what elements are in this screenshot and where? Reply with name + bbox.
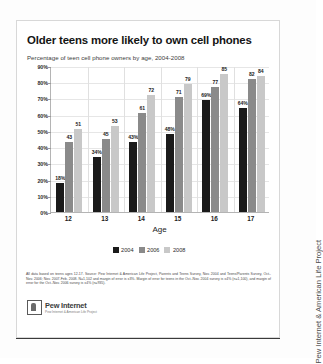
y-axis-labels: 0%10%20%30%40%50%60%70%80%90% xyxy=(25,67,49,213)
bar: 69% xyxy=(202,100,210,212)
x-axis-tick-label: 14 xyxy=(138,215,145,222)
bar-value-label: 51 xyxy=(75,121,81,127)
bar-value-label: 85 xyxy=(221,66,227,72)
bar-value-label: 45 xyxy=(103,131,109,137)
legend-swatch xyxy=(139,247,145,253)
bar: 61 xyxy=(138,113,146,212)
bar: 84 xyxy=(257,76,265,212)
plot-canvas: 18%435134%455343%617248%717969%778564%82… xyxy=(50,67,269,213)
bar-value-label: 64% xyxy=(238,100,248,106)
bar: 79 xyxy=(184,84,192,212)
bar-value-label: 43% xyxy=(128,134,138,140)
bar-group: 48%7179 xyxy=(161,67,198,212)
y-axis-tick-label: 0% xyxy=(40,210,48,216)
legend-item: 2006 xyxy=(139,247,160,253)
legend-label: 2006 xyxy=(147,247,159,253)
legend-item: 2008 xyxy=(164,247,185,253)
bar-value-label: 72 xyxy=(148,87,154,93)
bar: 34% xyxy=(93,157,101,212)
bar-value-label: 69% xyxy=(201,92,211,98)
bar: 18% xyxy=(56,183,64,212)
x-axis-tick-label: 17 xyxy=(247,215,254,222)
bar: 53 xyxy=(111,126,119,212)
bar-group: 69%7785 xyxy=(197,67,234,212)
legend-label: 2008 xyxy=(173,247,185,253)
page-subtitle: Percentage of teen cell phone owners by … xyxy=(27,54,273,61)
bar-value-label: 71 xyxy=(176,89,182,95)
bar: 64% xyxy=(239,108,247,212)
bar: 71 xyxy=(175,97,183,212)
bar-value-label: 53 xyxy=(112,118,118,124)
y-axis-tick-label: 80% xyxy=(37,80,48,86)
logo-text: Pew Internet Pew Internet & American Lif… xyxy=(45,302,97,314)
chart-card: Older teens more likely to own cell phon… xyxy=(16,20,280,338)
legend-swatch xyxy=(113,247,119,253)
logo-tagline: Pew Internet & American Life Project xyxy=(45,310,97,314)
bar-group: 64%8284 xyxy=(234,67,271,212)
y-axis-tick-label: 50% xyxy=(37,129,48,135)
legend-label: 2004 xyxy=(121,247,133,253)
bar: 48% xyxy=(166,134,174,212)
bar: 43 xyxy=(65,142,73,212)
bar: 82 xyxy=(248,79,256,212)
page-title: Older teens more likely to own cell phon… xyxy=(27,34,273,47)
y-axis-tick xyxy=(48,213,51,214)
x-axis-tick-label: 13 xyxy=(101,215,108,222)
bar-value-label: 82 xyxy=(249,71,255,77)
bar: 72 xyxy=(147,95,155,212)
x-axis-title: Age xyxy=(50,225,269,234)
bar-value-label: 61 xyxy=(139,105,145,111)
legend-swatch xyxy=(164,247,170,253)
bar-value-label: 18% xyxy=(55,175,65,181)
bar-group: 18%4351 xyxy=(51,67,88,212)
bar: 43% xyxy=(129,142,137,212)
y-axis-tick-label: 70% xyxy=(37,96,48,102)
bar: 51 xyxy=(74,129,82,212)
y-axis-tick-label: 30% xyxy=(37,161,48,167)
bar-group: 43%6172 xyxy=(124,67,161,212)
pew-internet-logo: Pew Internet Pew Internet & American Lif… xyxy=(27,300,97,315)
chart-legend: 200420062008 xyxy=(17,247,281,253)
x-axis-tick-label: 12 xyxy=(65,215,72,222)
logo-name: Pew Internet xyxy=(45,302,97,310)
side-credit: Pew Internet & American Life Project xyxy=(314,240,323,364)
pew-logo-icon xyxy=(27,300,42,315)
bar: 77 xyxy=(211,87,219,212)
x-axis-tick-label: 15 xyxy=(174,215,181,222)
y-axis-tick-label: 60% xyxy=(37,113,48,119)
footnote: All data based on teens ages 12-17. Sour… xyxy=(26,272,271,286)
plot-area: 0%10%20%30%40%50%60%70%80%90% 18%435134%… xyxy=(25,67,273,229)
y-axis-tick-label: 20% xyxy=(37,178,48,184)
y-axis-tick-label: 10% xyxy=(37,194,48,200)
legend-item: 2004 xyxy=(113,247,134,253)
bar: 85 xyxy=(220,74,228,212)
bar-value-label: 77 xyxy=(212,79,218,85)
bar-group: 34%4553 xyxy=(88,67,125,212)
bar-value-label: 48% xyxy=(165,126,175,132)
bar-value-label: 84 xyxy=(258,68,264,74)
y-axis-tick-label: 40% xyxy=(37,145,48,151)
bar: 45 xyxy=(102,139,110,212)
bar-value-label: 79 xyxy=(185,76,191,82)
bar-value-label: 34% xyxy=(92,149,102,155)
y-axis-tick-label: 90% xyxy=(37,64,48,70)
x-axis-tick-label: 16 xyxy=(211,215,218,222)
bar-value-label: 43 xyxy=(66,134,72,140)
